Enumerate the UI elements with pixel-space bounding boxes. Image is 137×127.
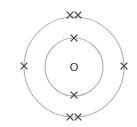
atom-diagram: O [0, 0, 137, 127]
electron-icon [71, 92, 77, 98]
nucleus-label: O [70, 61, 79, 73]
